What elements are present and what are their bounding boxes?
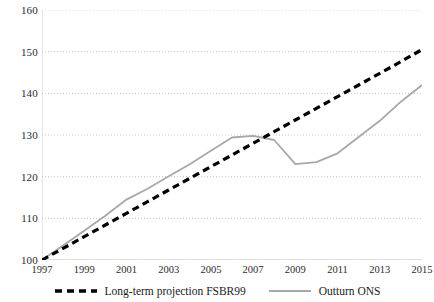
series-line-outturn (42, 85, 422, 260)
x-axis-tick-label: 2009 (285, 264, 306, 275)
x-axis-tick-label: 2001 (116, 264, 137, 275)
plot-area (42, 10, 422, 260)
legend-label: Outturn ONS (319, 285, 381, 297)
y-axis-tick-label: 160 (21, 5, 38, 16)
dashed-line-swatch (54, 286, 98, 296)
series-line-projection (42, 50, 422, 260)
x-axis-tick-label: 2005 (200, 264, 221, 275)
y-axis: 160150140130120110100 (0, 0, 38, 302)
y-axis-tick-label: 130 (21, 130, 38, 141)
y-axis-tick-label: 150 (21, 46, 38, 57)
x-axis-tick-label: 1999 (74, 264, 95, 275)
y-axis-tick-label: 140 (21, 88, 38, 99)
x-axis-tick-label: 1997 (32, 264, 53, 275)
solid-line-swatch (268, 286, 312, 296)
line-chart: 160150140130120110100 199719992001200320… (0, 0, 434, 302)
legend-item: Outturn ONS (268, 285, 381, 297)
plot-svg (42, 10, 422, 260)
x-axis: 1997199920012003200520072009201120132015 (0, 264, 434, 278)
x-axis-tick-label: 2011 (327, 264, 348, 275)
x-axis-tick-label: 2015 (412, 264, 433, 275)
x-axis-tick-label: 2007 (243, 264, 264, 275)
x-axis-tick-label: 2003 (158, 264, 179, 275)
x-axis-tick-label: 2013 (369, 264, 390, 275)
chart-legend: Long-term projection FSBR99Outturn ONS (0, 281, 434, 301)
y-axis-tick-label: 110 (21, 213, 38, 224)
legend-label: Long-term projection FSBR99 (105, 285, 246, 297)
legend-item: Long-term projection FSBR99 (54, 285, 246, 297)
y-axis-tick-label: 120 (21, 171, 38, 182)
